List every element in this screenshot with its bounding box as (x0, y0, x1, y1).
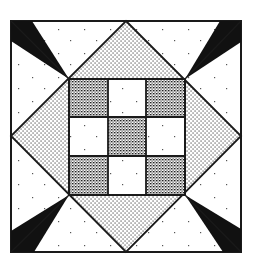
patch-r2c3-light (146, 117, 185, 156)
patch-r3c3-dark (146, 156, 185, 195)
patch-r3c2-light (108, 156, 146, 195)
nine-patch (69, 79, 185, 195)
quilt-block (0, 0, 258, 265)
patch-r2c2-dark (108, 117, 146, 156)
patch-r1c1-dark (69, 79, 108, 117)
patch-r2c1-light (69, 117, 108, 156)
patch-r1c3-dark (146, 79, 185, 117)
patch-r1c2-light (108, 79, 146, 117)
patch-r3c1-dark (69, 156, 108, 195)
